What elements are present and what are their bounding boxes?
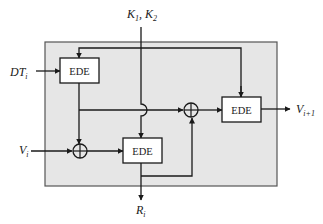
v-input-label: Vi bbox=[19, 143, 29, 159]
r-output-label: Ri bbox=[135, 203, 146, 219]
xor-node-2 bbox=[184, 103, 198, 117]
svg-text:EDE: EDE bbox=[132, 146, 152, 157]
dt-label: DTi bbox=[9, 65, 28, 81]
ede-block-1: EDE bbox=[60, 58, 99, 83]
ede-block-2: EDE bbox=[123, 138, 162, 163]
keys-label: K1, K2 bbox=[126, 7, 157, 23]
svg-text:EDE: EDE bbox=[231, 105, 251, 116]
v-next-label: Vi+1 bbox=[296, 102, 315, 118]
ansi-x931-prng-diagram: K1, K2 DTi EDE Vi EDE Ri bbox=[0, 0, 323, 224]
svg-text:EDE: EDE bbox=[69, 66, 89, 77]
xor-node-1 bbox=[73, 144, 87, 158]
ede-block-3: EDE bbox=[222, 97, 261, 122]
